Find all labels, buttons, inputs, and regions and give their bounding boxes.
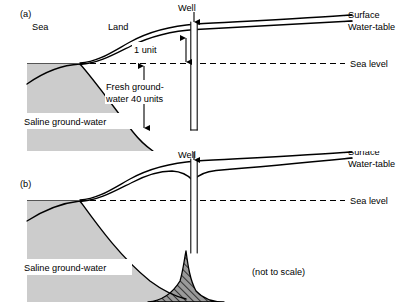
panel-b: (b) Well Surface Water-table Sea level S… xyxy=(0,151,414,302)
one-unit-label-a: 1 unit xyxy=(134,45,157,55)
sea-level-label-b: Sea level xyxy=(350,196,388,206)
well-label-a: Well xyxy=(178,3,196,13)
panel-b-well-label-overlay: Well xyxy=(0,148,414,168)
panel-a: (a) Sea Land Well Surface Water-table Se… xyxy=(0,0,414,151)
saline-label-b: Saline ground-water xyxy=(24,263,106,273)
saline-label-a: Saline ground-water xyxy=(24,117,106,127)
panel-b-id: (b) xyxy=(20,179,31,189)
not-to-scale-label: (not to scale) xyxy=(252,267,305,277)
panel-a-id: (a) xyxy=(20,9,31,19)
figure-container: (a) Sea Land Well Surface Water-table Se… xyxy=(0,0,414,302)
water-table-label-a: Water-table xyxy=(348,22,395,32)
sea-label-a: Sea xyxy=(32,22,49,32)
well-label-b-text: Well xyxy=(178,150,196,160)
well-shaft-fill-a xyxy=(191,22,198,130)
well-shaft-fill-b xyxy=(191,159,198,253)
fresh-label-line1-a: Fresh ground- xyxy=(106,82,164,92)
land-label-a: Land xyxy=(108,22,128,32)
fresh-label-line2-a: water 40 units xyxy=(105,94,164,104)
surface-label-a: Surface xyxy=(348,10,380,20)
sea-level-label-a: Sea level xyxy=(350,59,388,69)
